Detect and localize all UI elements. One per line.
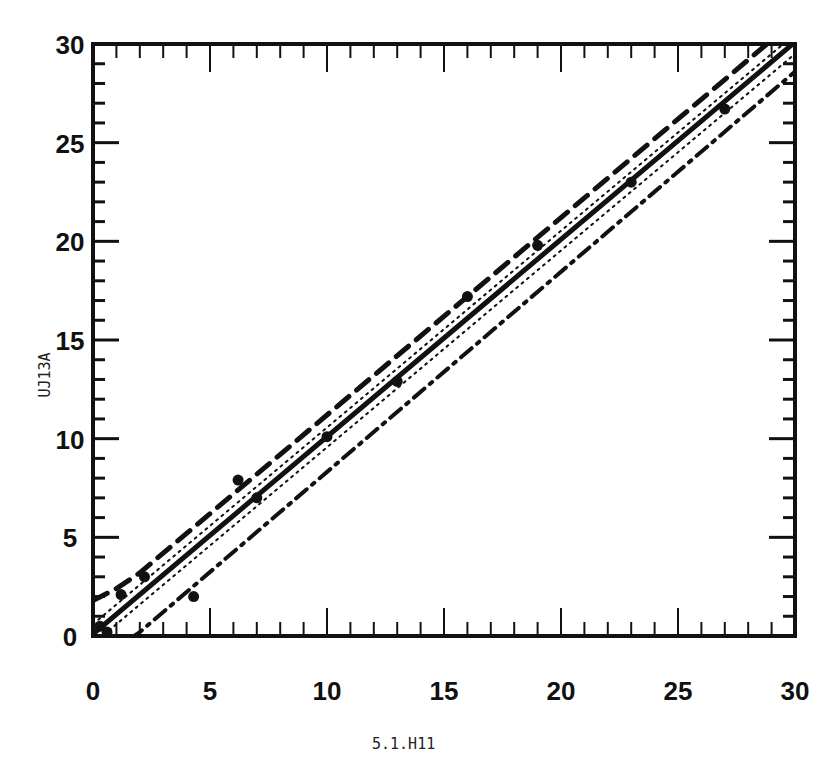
- y-tick-label: 25: [56, 129, 85, 159]
- data-point: [462, 291, 473, 302]
- x-tick-label: 15: [430, 676, 459, 706]
- data-point: [626, 177, 637, 188]
- series-solid-line: [93, 42, 795, 634]
- data-point: [392, 376, 403, 387]
- y-tick-label: 5: [63, 523, 77, 553]
- series-dashed-line: [93, 20, 795, 600]
- data-point: [719, 104, 730, 115]
- series-dash-dot-line: [105, 72, 795, 656]
- x-tick-label: 20: [547, 676, 576, 706]
- y-axis-title: UJ13A: [36, 352, 54, 397]
- series-dotted-line: [93, 54, 795, 644]
- x-tick-label: 30: [781, 676, 810, 706]
- y-tick-label: 15: [56, 326, 85, 356]
- data-points: [95, 104, 731, 638]
- data-point: [233, 475, 244, 486]
- data-point: [322, 431, 333, 442]
- x-tick-label: 5: [203, 676, 217, 706]
- series-dotted-line: [93, 34, 795, 624]
- x-tick-label: 25: [664, 676, 693, 706]
- data-point: [532, 240, 543, 251]
- tick-labels: 051015202530051015202530: [56, 30, 810, 706]
- x-tick-label: 0: [86, 676, 100, 706]
- y-tick-label: 10: [56, 425, 85, 455]
- y-tick-label: 30: [56, 30, 85, 60]
- confidence-bands: [93, 20, 795, 655]
- data-point: [188, 591, 199, 602]
- data-point: [139, 571, 150, 582]
- x-axis-title: 5.1.H11: [372, 735, 435, 753]
- data-point: [251, 492, 262, 503]
- data-point: [102, 627, 113, 638]
- y-tick-label: 20: [56, 227, 85, 257]
- x-tick-label: 10: [313, 676, 342, 706]
- data-point: [116, 589, 127, 600]
- y-tick-label: 0: [63, 622, 77, 652]
- scatter-chart: 051015202530051015202530 5.1.H11 UJ13A: [0, 0, 828, 776]
